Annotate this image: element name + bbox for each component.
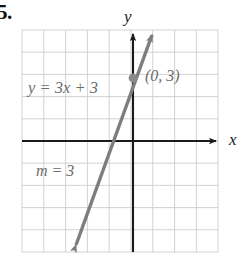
y-axis-label: y (124, 8, 132, 25)
equation-label: y = 3x + 3 (28, 80, 98, 97)
x-axis-label: x (229, 131, 237, 148)
coordinate-plane (0, 0, 246, 257)
slope-label: m = 3 (36, 163, 74, 179)
graph-figure: 5. (0, 0, 246, 257)
point-coordinate-label: (0, 3) (145, 68, 180, 84)
point-marker-y-intercept (129, 74, 138, 83)
